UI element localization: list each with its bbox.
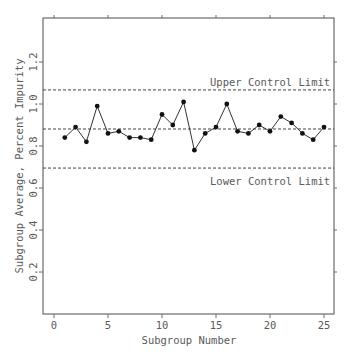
data-point (224, 102, 229, 107)
data-point (181, 100, 186, 105)
upper-control-limit-label: Upper Control Limit (210, 76, 330, 88)
data-point (62, 135, 67, 140)
x-tick-label: 10 (156, 319, 169, 331)
data-point (278, 114, 283, 119)
x-tick-label: 25 (318, 319, 331, 331)
data-point (149, 137, 154, 142)
y-tick-label: 1.2 (27, 53, 39, 72)
data-point (160, 112, 165, 117)
data-point (311, 137, 316, 142)
y-tick-label: 0.4 (27, 221, 39, 240)
x-tick-label: 15 (210, 319, 223, 331)
x-tick-label: 0 (51, 319, 57, 331)
y-tick-label: 0.2 (27, 263, 39, 282)
y-tick-label: 0.6 (27, 179, 39, 198)
data-point (73, 125, 78, 130)
control-chart: 05101520250.20.40.60.81.01.2 Upper Contr… (0, 0, 350, 359)
x-tick-label: 20 (264, 319, 277, 331)
control-limit-lines (43, 90, 334, 168)
data-point (246, 131, 251, 136)
plot-frame (43, 18, 334, 314)
data-point (170, 123, 175, 128)
lower-control-limit-label: Lower Control Limit (210, 175, 330, 187)
data-point (235, 129, 240, 134)
y-tick-label: 1.0 (27, 95, 39, 114)
axis-ticks: 05101520250.20.40.60.81.01.2 (27, 15, 337, 331)
data-point (214, 125, 219, 130)
data-point (138, 135, 143, 140)
data-point (127, 135, 132, 140)
data-point (203, 131, 208, 136)
data-point (289, 121, 294, 126)
data-point (300, 131, 305, 136)
data-point (95, 104, 100, 109)
plot-border (43, 18, 334, 314)
x-axis-label: Subgroup Number (142, 334, 237, 346)
data-point (322, 125, 327, 130)
data-point (192, 148, 197, 153)
data-series (62, 100, 326, 153)
data-point (257, 123, 262, 128)
x-tick-label: 5 (105, 319, 111, 331)
y-tick-label: 0.8 (27, 137, 39, 156)
data-point (84, 139, 89, 144)
data-point (268, 129, 273, 134)
data-point (116, 129, 121, 134)
y-axis-label: Subgroup Average, Percent Impurity (13, 59, 25, 274)
series-line (65, 102, 324, 150)
data-point (106, 131, 111, 136)
